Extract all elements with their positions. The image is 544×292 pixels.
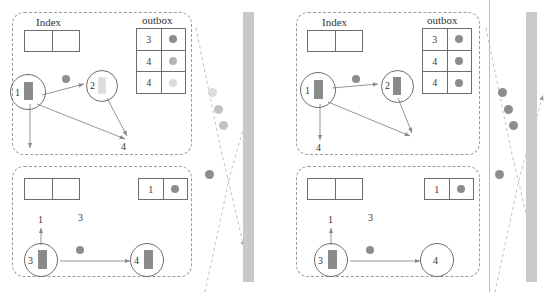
payload-dot <box>455 79 463 87</box>
table-row <box>25 31 79 51</box>
outbox-dot-cell <box>162 51 186 72</box>
table-row <box>25 179 79 199</box>
index-table-left-bottom <box>24 178 80 200</box>
in-transit-dot <box>62 75 70 83</box>
outbox-table-right-top: 3 4 4 <box>422 28 472 94</box>
node-label: 4 <box>134 255 139 266</box>
outbox-value: 1 <box>139 179 164 199</box>
index-cell <box>53 31 80 51</box>
free-label-4: 4 <box>316 142 321 153</box>
wall-left <box>243 12 254 282</box>
outbox-dot-cell <box>162 72 186 93</box>
node-label: 3 <box>318 255 323 266</box>
table-row: 4 <box>423 51 471 73</box>
outbox-dot-cell <box>162 29 186 50</box>
node-bar <box>144 250 153 269</box>
node-bar <box>328 250 337 269</box>
free-label-3: 3 <box>78 212 83 223</box>
outbox-table-left-top: 3 4 4 <box>136 28 186 94</box>
in-flight-dot <box>214 105 223 114</box>
node-label: 2 <box>90 80 95 91</box>
outbox-value: 4 <box>423 51 448 72</box>
index-table-right-bottom <box>307 178 363 200</box>
table-row: 4 <box>137 51 185 73</box>
payload-dot <box>169 35 177 43</box>
free-label-3: 3 <box>368 212 373 223</box>
node-label: 2 <box>385 80 390 91</box>
outbox-table-right-bottom: 1 <box>424 178 474 200</box>
diagram-canvas: Index outbox 3 4 4 1 2 4 <box>0 0 544 292</box>
node-bar <box>98 77 106 94</box>
table-row: 3 <box>423 29 471 51</box>
payload-dot <box>169 57 177 65</box>
outbox-value: 4 <box>137 51 162 72</box>
divider-line-right <box>489 0 490 292</box>
index-cell <box>336 31 363 51</box>
outbox-dot-cell <box>164 179 188 199</box>
outbox-label-right-top: outbox <box>427 14 458 26</box>
free-label-1: 1 <box>328 214 333 225</box>
free-label-1: 1 <box>38 214 43 225</box>
node-label: 3 <box>28 255 33 266</box>
outbox-dot-cell <box>448 29 472 50</box>
index-label-left-top: Index <box>36 16 61 28</box>
payload-dot <box>169 79 177 87</box>
outbox-value: 4 <box>423 72 448 93</box>
outbox-value: 3 <box>137 29 162 50</box>
index-cell <box>53 179 80 199</box>
table-row: 1 <box>139 179 187 199</box>
outbox-value: 4 <box>137 72 162 93</box>
outbox-dot-cell <box>448 51 472 72</box>
table-row <box>308 179 362 199</box>
node-bar <box>393 77 401 95</box>
in-flight-dot <box>498 88 507 97</box>
payload-dot <box>457 185 465 193</box>
table-row: 4 <box>423 72 471 93</box>
node-bar <box>38 250 47 269</box>
node-bar <box>24 82 33 100</box>
index-cell <box>308 31 336 51</box>
outbox-value: 3 <box>423 29 448 50</box>
in-flight-dot <box>219 121 228 130</box>
payload-dot <box>171 185 179 193</box>
outbox-dot-cell <box>448 72 472 93</box>
payload-dot <box>455 57 463 65</box>
in-flight-dot <box>509 121 518 130</box>
table-row: 1 <box>425 179 473 199</box>
table-row: 4 <box>137 72 185 93</box>
node-label: 1 <box>15 87 20 98</box>
index-cell <box>25 31 53 51</box>
node-label: 1 <box>305 85 310 96</box>
outbox-value: 1 <box>425 179 450 199</box>
in-flight-dot <box>495 170 504 179</box>
in-flight-dot <box>504 105 513 114</box>
index-cell <box>25 179 53 199</box>
outbox-table-left-bottom: 1 <box>138 178 188 200</box>
in-transit-dot <box>366 246 374 254</box>
node-label: 4 <box>433 255 438 266</box>
outbox-dot-cell <box>450 179 474 199</box>
node-bar <box>314 80 323 99</box>
wall-right <box>526 12 537 282</box>
free-label-4: 4 <box>121 141 126 152</box>
table-row: 3 <box>137 29 185 51</box>
table-row <box>308 31 362 51</box>
payload-dot <box>455 35 463 43</box>
index-table-right-top <box>307 30 363 52</box>
index-cell <box>336 179 363 199</box>
in-transit-dot <box>352 75 360 83</box>
in-transit-dot <box>76 246 84 254</box>
in-flight-dot <box>205 170 214 179</box>
outbox-label-left-top: outbox <box>142 14 173 26</box>
index-cell <box>308 179 336 199</box>
index-label-right-top: Index <box>322 16 347 28</box>
index-table-left-top <box>24 30 80 52</box>
in-flight-dot <box>208 88 217 97</box>
